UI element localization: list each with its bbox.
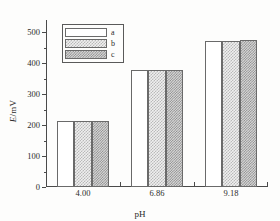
y-tick-major	[42, 63, 46, 64]
legend-swatch-c	[65, 50, 107, 59]
y-tick-label: 400	[27, 59, 40, 68]
bar-b-6.86	[148, 70, 166, 187]
bar-b-4.00	[74, 121, 92, 187]
y-axis-title: E/mV	[8, 99, 18, 121]
y-tick-label: 200	[27, 121, 40, 130]
bar-c-4.00	[92, 121, 110, 187]
y-tick-major	[42, 94, 46, 95]
legend-row: c	[65, 49, 121, 60]
legend-swatch-b	[65, 39, 107, 48]
x-tick-label: 6.86	[150, 189, 165, 198]
y-tick-label: 100	[27, 152, 40, 161]
y-axis-line	[46, 20, 47, 187]
y-tick-minor	[44, 48, 46, 49]
legend: a b c	[62, 24, 124, 63]
y-axis-title-symbol: E	[8, 116, 18, 122]
y-tick-minor	[44, 110, 46, 111]
x-tick	[120, 182, 121, 187]
bar-b-9.18	[222, 41, 240, 187]
bar-chart-figure: 0100200300400500 4.006.869.18 a b c E/mV…	[0, 0, 280, 221]
x-axis-title: pH	[0, 209, 280, 219]
bar-a-9.18	[205, 41, 223, 187]
x-tick-label: 9.18	[224, 189, 239, 198]
x-tick-label: 4.00	[76, 189, 91, 198]
y-tick-label: 500	[27, 28, 40, 37]
bar-c-6.86	[166, 70, 184, 187]
legend-row: b	[65, 38, 121, 49]
legend-swatch-a	[65, 28, 107, 37]
bar-a-6.86	[131, 70, 149, 187]
y-tick-major	[42, 125, 46, 126]
legend-row: a	[65, 27, 121, 38]
legend-label-a: a	[111, 28, 115, 37]
x-tick	[267, 182, 268, 187]
y-axis-title-unit: /mV	[8, 99, 18, 116]
x-tick	[194, 182, 195, 187]
y-tick-major	[42, 187, 46, 188]
y-tick-minor	[44, 79, 46, 80]
legend-label-b: b	[111, 39, 115, 48]
plot-area: 0100200300400500 4.006.869.18 a b c	[46, 20, 268, 187]
y-tick-label: 300	[27, 90, 40, 99]
y-tick-major	[42, 32, 46, 33]
bar-c-9.18	[240, 40, 258, 187]
y-tick-label: 0	[36, 183, 40, 192]
y-tick-major	[42, 156, 46, 157]
y-tick-minor	[44, 172, 46, 173]
bar-a-4.00	[57, 121, 75, 187]
y-tick-minor	[44, 141, 46, 142]
legend-label-c: c	[111, 50, 115, 59]
x-tick	[46, 182, 47, 187]
